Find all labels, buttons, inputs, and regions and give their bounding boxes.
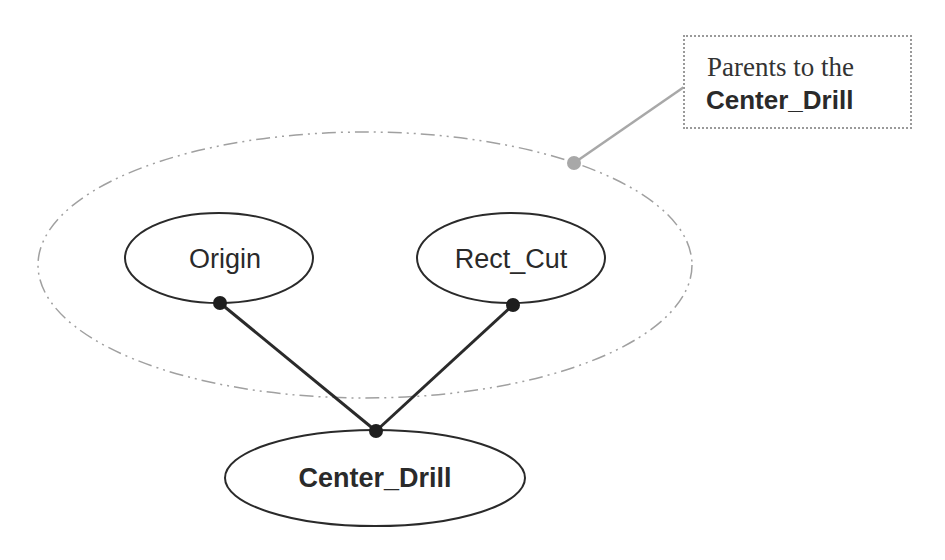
port-center-drill-dot: [369, 424, 383, 438]
node-origin[interactable]: Origin: [125, 213, 313, 303]
edge-origin-to-center-drill: [220, 303, 376, 431]
node-origin-label: Origin: [189, 244, 261, 274]
callout-text-line2: Center_Drill: [706, 85, 853, 116]
port-origin-dot: [213, 296, 227, 310]
callout-text-line1: Parents to the: [707, 52, 854, 83]
node-rect-cut[interactable]: Rect_Cut: [417, 213, 605, 303]
port-rect-cut-dot: [506, 298, 520, 312]
callout-anchor-dot: [567, 156, 581, 170]
edge-rect-cut-to-center-drill: [376, 305, 513, 431]
node-rect-cut-label: Rect_Cut: [455, 244, 568, 274]
node-center-drill[interactable]: Center_Drill: [225, 430, 525, 526]
callout-leader-line: [574, 87, 684, 163]
node-center-drill-label: Center_Drill: [298, 463, 451, 493]
